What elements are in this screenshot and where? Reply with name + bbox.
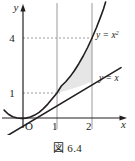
y-axis-label: y: [13, 1, 19, 13]
y-axis-arrow: [20, 4, 25, 12]
curve-label-y-equals-x-squared-text: y = x: [95, 30, 116, 40]
x-axis-label: x: [120, 118, 126, 130]
figure-caption: 図 6.4: [0, 139, 135, 155]
curve-label-y-equals-x-squared: y = x2: [95, 29, 120, 41]
x-tick-label-1: 1: [52, 120, 58, 132]
x-tick-label-2: 2: [86, 120, 92, 132]
y-tick-label-1: 1: [9, 87, 15, 99]
curve-label-y-equals-x: y = x: [98, 73, 119, 83]
plot-area: y x O 1 2 1 4 y = x2 y = x: [0, 0, 135, 135]
y-tick-label-4: 4: [9, 32, 15, 44]
figure-container: y x O 1 2 1 4 y = x2 y = x 図 6.4: [0, 0, 135, 161]
origin-label: O: [25, 120, 33, 132]
curve-label-exponent: 2: [116, 29, 120, 36]
